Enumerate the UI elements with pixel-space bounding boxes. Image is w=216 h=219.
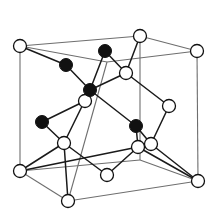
unit-cell-edge — [197, 51, 198, 181]
unit-cell-edge — [140, 36, 197, 51]
atom-open-circle — [145, 138, 158, 151]
atom-open-circle — [134, 30, 147, 43]
atomic-bond — [90, 90, 136, 126]
atom-open-circle — [163, 100, 176, 113]
crystal-structure-canvas — [0, 0, 216, 219]
atom-open-circle — [120, 67, 133, 80]
atomic-bond — [126, 73, 169, 106]
unit-cell-edge — [20, 171, 68, 201]
atom-markers — [14, 30, 205, 208]
atom-filled-circle — [84, 84, 97, 97]
atom-open-circle — [192, 175, 205, 188]
atomic-bond — [64, 143, 68, 201]
unit-cell-edge — [20, 36, 140, 46]
atom-open-circle — [14, 40, 27, 53]
atomic-bond — [20, 46, 66, 65]
atomic-bond — [64, 143, 107, 175]
unit-cell-edge — [68, 62, 107, 201]
atomic-bond — [138, 147, 198, 181]
atom-open-circle — [101, 169, 114, 182]
crystal-structure-figure — [0, 0, 216, 219]
atomic-bond — [151, 144, 198, 181]
unit-cell-edge — [107, 51, 197, 62]
atom-filled-circle — [99, 45, 112, 58]
unit-cell-edge — [68, 181, 198, 201]
atom-open-circle — [14, 165, 27, 178]
atom-open-circle — [132, 141, 145, 154]
unit-cell-edge — [140, 160, 198, 181]
atom-filled-circle — [36, 116, 49, 129]
atomic-bond — [42, 101, 85, 122]
atom-open-circle — [191, 45, 204, 58]
atom-open-circle — [62, 195, 75, 208]
atom-filled-circle — [130, 120, 143, 133]
atom-filled-circle — [60, 59, 73, 72]
atom-open-circle — [58, 137, 71, 150]
